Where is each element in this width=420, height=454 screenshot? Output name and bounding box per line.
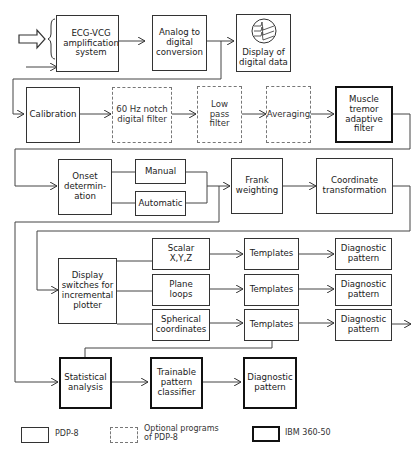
frank-weighting-block: Frank weighting	[231, 158, 283, 214]
display-switches-label: Display switches for incremental plotter	[62, 271, 114, 311]
templates-block-2: Templates	[244, 274, 299, 306]
trainable-classifier-label: Trainable pattern classifier	[157, 368, 196, 398]
averaging-block: Averaging	[266, 86, 311, 143]
low-pass-filter-block: Low pass filter	[197, 86, 242, 143]
calibration-block: Calibration	[26, 87, 80, 143]
manual-label: Manual	[145, 167, 176, 177]
diagnostic-pattern-block-3: Diagnostic pattern	[335, 309, 392, 341]
onset-determination-label: Onset determin- ation	[64, 172, 106, 202]
spherical-coordinates-block: Spherical coordinates	[152, 309, 210, 341]
legend-optional-label: Optional programs of PDP-8	[144, 425, 219, 443]
scalar-xyz-label: Scalar X,Y,Z	[168, 244, 195, 264]
diagnostic-pattern-block-1: Diagnostic pattern	[335, 238, 392, 270]
amplification-system-block: ECG-VCG amplification system	[56, 15, 119, 72]
adc-label: Analog to digital conversion	[156, 28, 203, 58]
low-pass-filter-label: Low pass filter	[210, 100, 230, 130]
legend-pdp8-swatch	[21, 427, 49, 443]
coordinate-transformation-label: Coordinate transformation	[323, 176, 387, 196]
scalar-xyz-block: Scalar X,Y,Z	[152, 238, 210, 270]
coordinate-transformation-block: Coordinate transformation	[316, 158, 393, 214]
diagnostic-pattern-label: Diagnostic pattern	[341, 244, 386, 264]
oscilloscope-display-icon	[250, 17, 278, 45]
spherical-coordinates-label: Spherical coordinates	[156, 315, 206, 335]
legend-optional-swatch	[110, 427, 138, 443]
automatic-block: Automatic	[135, 191, 186, 216]
amplification-system-label: ECG-VCG amplification system	[63, 29, 119, 59]
frank-weighting-label: Frank weighting	[236, 176, 278, 196]
trainable-classifier-block: Trainable pattern classifier	[150, 357, 203, 409]
display-switches-block: Display switches for incremental plotter	[58, 258, 117, 324]
muscle-tremor-filter-block: Muscle tremor adaptive filter	[335, 86, 393, 143]
diagnostic-pattern-final-block: Diagnostic pattern	[243, 357, 297, 409]
legend-ibm-label: IBM 360-50	[285, 429, 331, 438]
calibration-label: Calibration	[30, 110, 77, 120]
adc-block: Analog to digital conversion	[152, 15, 207, 71]
automatic-label: Automatic	[138, 199, 182, 209]
statistical-analysis-block: Statistical analysis	[59, 357, 112, 409]
diagnostic-pattern-label: Diagnostic pattern	[341, 280, 386, 300]
plane-loops-block: Plane loops	[152, 274, 210, 306]
legend-ibm-swatch	[252, 426, 280, 442]
templates-label: Templates	[250, 249, 294, 259]
onset-determination-block: Onset determin- ation	[58, 159, 112, 215]
display-digital-data-label: Display of digital data	[239, 48, 288, 68]
notch-filter-block: 60 Hz notch digital filter	[112, 87, 172, 143]
templates-label: Templates	[250, 320, 294, 330]
notch-filter-label: 60 Hz notch digital filter	[116, 105, 168, 125]
templates-block-3: Templates	[244, 309, 299, 341]
diagnostic-pattern-block-2: Diagnostic pattern	[335, 274, 392, 306]
statistical-analysis-label: Statistical analysis	[64, 373, 106, 393]
templates-block-1: Templates	[244, 238, 299, 270]
manual-block: Manual	[135, 159, 186, 184]
plane-loops-label: Plane loops	[169, 280, 193, 300]
averaging-label: Averaging	[267, 110, 310, 120]
diagnostic-pattern-final-label: Diagnostic pattern	[247, 373, 292, 393]
muscle-tremor-filter-label: Muscle tremor adaptive filter	[345, 95, 383, 135]
block-diagram: A F G ECG-VCG amplification system Analo…	[0, 0, 420, 454]
legend-pdp8-label: PDP-8	[55, 430, 79, 439]
display-digital-data-block: Display of digital data	[236, 14, 291, 72]
templates-label: Templates	[250, 285, 294, 295]
diagnostic-pattern-label: Diagnostic pattern	[341, 315, 386, 335]
